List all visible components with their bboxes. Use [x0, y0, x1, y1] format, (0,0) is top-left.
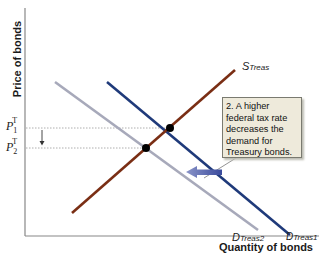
equilibrium-point-2 [142, 144, 150, 152]
supply-label: STreas [242, 60, 269, 72]
demand-1-label: DTreas1 [286, 231, 318, 242]
price-drop-arrow-icon [40, 130, 45, 146]
demand-2-label: DTreas2 [232, 231, 264, 243]
demand-shift-arrow-icon [186, 166, 222, 178]
price-label-p2: P2T [6, 139, 22, 156]
annotation-callout: 2. A higher federal tax rate decreases t… [222, 97, 302, 158]
supply-curve [72, 70, 235, 213]
y-axis-label: Price of bonds [11, 13, 25, 105]
price-label-p1: P1T [6, 118, 22, 135]
equilibrium-point-1 [166, 124, 174, 132]
